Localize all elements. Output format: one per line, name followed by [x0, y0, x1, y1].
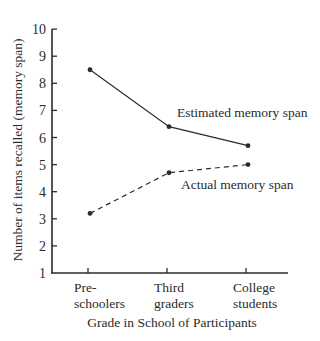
y-tick-label: 9 [39, 49, 46, 64]
y-axis-ticks: 12345678910 [32, 22, 57, 281]
y-axis-title: Number of items recalled (memory span) [10, 38, 25, 261]
line-chart: 12345678910 Pre-schoolersThirdgradersCol… [0, 0, 320, 341]
data-point [246, 162, 251, 167]
x-tick-label: graders [154, 296, 194, 311]
data-point [88, 211, 93, 216]
y-tick-label: 10 [32, 22, 46, 37]
y-tick-label: 1 [39, 266, 46, 281]
y-tick-label: 3 [39, 212, 46, 227]
data-point [246, 143, 251, 148]
y-tick-label: 4 [39, 185, 46, 200]
x-tick-label: Third [154, 280, 184, 295]
data-point [88, 67, 93, 72]
series-labels: Estimated memory span Actual memory span [177, 105, 308, 192]
x-axis-title: Grade in School of Participants [87, 315, 256, 330]
y-tick-label: 7 [39, 103, 46, 118]
estimated-span-label: Estimated memory span [177, 105, 308, 120]
x-tick-label: students [233, 296, 277, 311]
data-point [167, 170, 172, 175]
x-tick-label: schoolers [74, 296, 125, 311]
y-tick-label: 8 [39, 76, 46, 91]
data-series [88, 67, 251, 215]
y-tick-label: 6 [39, 131, 46, 146]
axes [51, 29, 288, 273]
x-tick-label: Pre- [74, 280, 97, 295]
x-tick-label: College [233, 280, 275, 295]
data-point [167, 124, 172, 129]
y-tick-label: 5 [39, 158, 46, 173]
y-tick-label: 2 [39, 239, 46, 254]
x-axis-ticks: Pre-schoolersThirdgradersCollegestudents [74, 268, 277, 311]
actual-span-label: Actual memory span [181, 177, 294, 192]
